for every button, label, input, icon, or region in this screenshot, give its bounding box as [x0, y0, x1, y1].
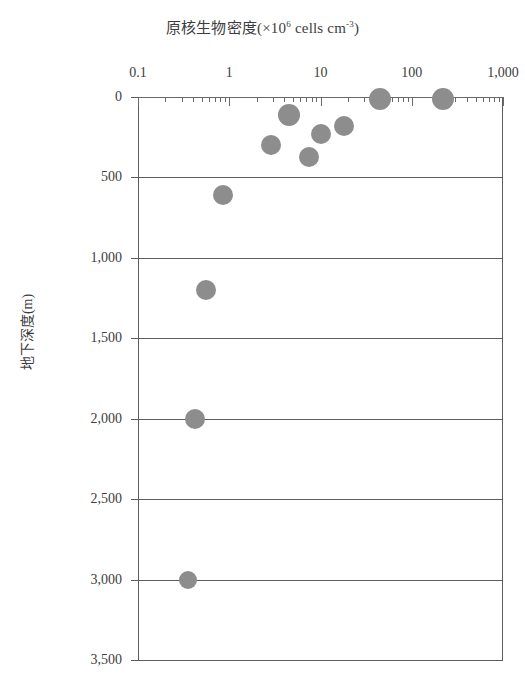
y-tick-2000	[131, 419, 138, 420]
data-point	[185, 409, 205, 429]
x-tick-0.4	[193, 97, 194, 102]
x-tick-500	[476, 97, 477, 102]
prokaryote-density-depth-chart: 原核生物密度(×106 cells cm-3) 地下深度(m) 0.111010…	[0, 0, 525, 697]
x-tick-0.30000000000000004	[182, 97, 183, 102]
x-tick-70	[398, 97, 399, 102]
x-tick-4	[284, 97, 285, 102]
x-tick-0.7000000000000001	[215, 97, 216, 102]
gridline-1500	[138, 338, 503, 339]
data-point	[334, 116, 354, 136]
y-axis-title: 地下深度(m)	[16, 262, 36, 402]
y-tick-label-2,500: 2,500	[52, 491, 122, 507]
x-tick-400	[467, 97, 468, 102]
x-tick-800	[494, 97, 495, 102]
y-tick-label-1,000: 1,000	[52, 250, 122, 266]
x-tick-0.5	[202, 97, 203, 102]
x-tick-1	[229, 97, 230, 106]
plot-area: 0.11101001,000 05001,0001,5002,0002,5003…	[138, 97, 503, 660]
y-tick-2500	[131, 499, 138, 500]
x-tick-5	[293, 97, 294, 102]
y-tick-label-3,500: 3,500	[52, 652, 122, 668]
x-tick-900	[499, 97, 500, 102]
x-tick-30	[364, 97, 365, 102]
x-tick-label-0.1: 0.1	[129, 65, 147, 81]
x-tick-6	[300, 97, 301, 102]
data-point	[213, 185, 233, 205]
x-tick-0.6000000000000001	[209, 97, 210, 102]
y-tick-500	[131, 177, 138, 178]
data-point	[369, 88, 391, 110]
gridline-3500	[138, 660, 503, 661]
x-tick-0.1	[138, 97, 139, 106]
x-tick-0.9	[225, 97, 226, 102]
chart-title-exponent-2: -3	[346, 19, 354, 29]
gridline-500	[138, 177, 503, 178]
x-tick-0.2	[165, 97, 166, 102]
x-tick-2	[257, 97, 258, 102]
x-tick-80	[403, 97, 404, 102]
y-tick-0	[131, 97, 138, 98]
x-tick-8	[312, 97, 313, 102]
x-tick-label-100: 100	[401, 65, 422, 81]
y-tick-label-3,000: 3,000	[52, 572, 122, 588]
chart-title-end: )	[354, 20, 359, 36]
chart-title: 原核生物密度(×106 cells cm-3)	[0, 16, 525, 37]
data-point	[311, 124, 331, 144]
gridline-1000	[138, 258, 503, 259]
data-point	[299, 147, 319, 167]
data-point	[261, 135, 281, 155]
x-tick-90	[408, 97, 409, 102]
y-axis-line-left	[138, 97, 139, 660]
x-tick-label-10: 10	[314, 65, 328, 81]
x-tick-60	[392, 97, 393, 102]
y-tick-1500	[131, 338, 138, 339]
x-tick-700	[489, 97, 490, 102]
y-tick-label-2,000: 2,000	[52, 411, 122, 427]
data-point	[196, 280, 216, 300]
x-tick-3	[273, 97, 274, 102]
x-tick-300	[455, 97, 456, 102]
y-tick-label-0: 0	[52, 89, 122, 105]
y-tick-3500	[131, 660, 138, 661]
x-tick-600	[483, 97, 484, 102]
chart-title-main: 原核生物密度(×10	[166, 20, 286, 36]
chart-title-tail: cells cm	[291, 20, 346, 36]
x-tick-label-1,000: 1,000	[487, 65, 519, 81]
x-tick-label-1: 1	[226, 65, 233, 81]
x-tick-7	[306, 97, 307, 102]
data-point	[179, 571, 197, 589]
y-tick-label-1,500: 1,500	[52, 330, 122, 346]
data-point	[432, 88, 454, 110]
x-tick-10	[321, 97, 322, 106]
x-tick-0.8	[220, 97, 221, 102]
y-tick-label-500: 500	[52, 169, 122, 185]
y-tick-1000	[131, 258, 138, 259]
x-tick-9	[316, 97, 317, 102]
plot-border-right	[502, 97, 503, 660]
data-point	[278, 104, 300, 126]
y-tick-3000	[131, 580, 138, 581]
x-tick-100	[412, 97, 413, 106]
x-tick-20	[348, 97, 349, 102]
x-tick-1000	[503, 97, 504, 106]
gridline-2500	[138, 499, 503, 500]
